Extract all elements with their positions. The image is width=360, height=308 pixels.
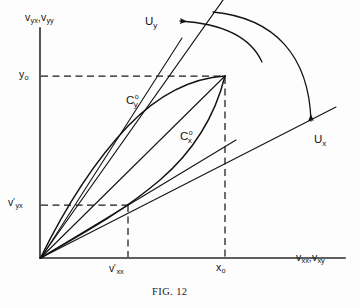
tick-label-y0: yo bbox=[19, 69, 29, 80]
y-axis-label-sub2: yy bbox=[46, 16, 53, 25]
vector-label-u-x: Ux bbox=[314, 134, 326, 146]
y-axis-label: vyx,vyy bbox=[25, 12, 54, 23]
tick-label-vxx-sub: xx bbox=[116, 267, 123, 276]
tick-label-x0: xo bbox=[216, 262, 226, 273]
curve-label-c-y-sub: y bbox=[134, 100, 138, 109]
curve-label-c-x: Cox bbox=[180, 131, 196, 143]
tick-label-vyx: v'yx bbox=[8, 197, 23, 208]
curve-label-c-y: Coy bbox=[126, 95, 142, 107]
x-axis-label: vxx,vxy bbox=[296, 252, 325, 263]
y-axis-label-sub1: yx bbox=[30, 16, 37, 25]
direction-arrows bbox=[180, 12, 311, 121]
ray-steep-secant bbox=[41, 38, 182, 258]
tick-label-y0-sub: o bbox=[24, 73, 28, 82]
axis-lines bbox=[40, 28, 345, 258]
vector-label-u-y: Uy bbox=[145, 16, 157, 28]
vector-label-u-y-sub: y bbox=[153, 21, 157, 30]
curve-label-c-x-sup: o bbox=[189, 129, 193, 136]
tick-label-x0-sub: o bbox=[221, 266, 225, 275]
curve-label-c-x-sub: x bbox=[188, 136, 192, 145]
curved-arrow-to-ux bbox=[213, 12, 311, 121]
x-axis-label-sub1: xx bbox=[301, 256, 308, 265]
vector-label-u-x-sub: x bbox=[322, 139, 326, 148]
x-axis-label-sub2: xy bbox=[317, 256, 324, 265]
tick-label-vyx-sub: yx bbox=[15, 201, 22, 210]
curve-label-c-y-sup: o bbox=[135, 93, 139, 100]
curved-arrow-to-uy bbox=[180, 21, 262, 62]
figure-caption: FIG. 12 bbox=[152, 286, 187, 297]
tick-label-vxx: v'xx bbox=[109, 263, 124, 274]
figure-12: vyx,vyy vxx,vxy yo v'yx v'xx xo Coy Cox … bbox=[0, 0, 360, 308]
